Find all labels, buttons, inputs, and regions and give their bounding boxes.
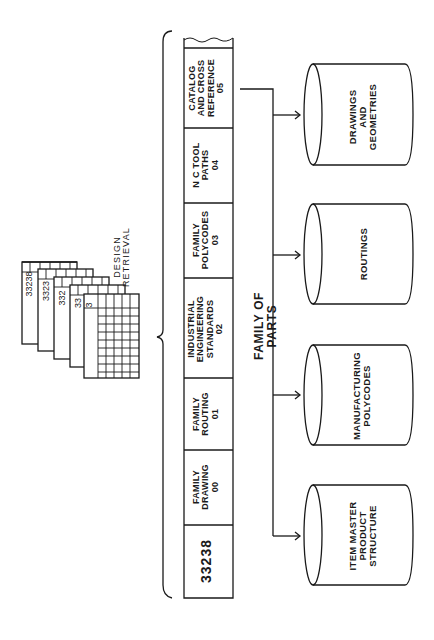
segment-industrial-engineering-standards: INDUSTRIAL ENGINEERING STANDARDS 02 — [187, 279, 229, 379]
card-label: 3 — [85, 290, 97, 320]
design-retrieval-label: DESIGN RETRIEVAL — [113, 217, 139, 297]
segment-nc-tool-paths: N C TOOL PATHS 04 — [192, 127, 226, 203]
database-label-manufacturing-polycodes: MANUFACTURING POLYCODES — [352, 348, 376, 444]
record-key: 33238 — [199, 525, 219, 597]
database-label-item-master: ITEM MASTER PRODUCT STRUCTURE — [348, 491, 382, 581]
segment-family-drawing: FAMILY DRAWING 00 — [192, 451, 226, 523]
family-of-parts-label: FAMILY OF PARTS — [253, 271, 269, 381]
segment-catalog-cross-reference: CATALOG AND CROSS REFERENCE 05 — [188, 48, 230, 128]
database-label-routings: ROUTINGS — [359, 209, 371, 299]
card-label: 332 — [58, 278, 70, 318]
database-label-drawings: DRAWINGS AND GEOMETRIES — [348, 72, 382, 162]
segment-family-polycodes: FAMILY POLYCODES 03 — [192, 202, 226, 278]
card-label: 33238 — [25, 264, 37, 304]
card-label: 3323 — [42, 271, 54, 311]
segment-family-routing: FAMILY ROUTING 01 — [192, 376, 226, 452]
brace — [157, 31, 172, 598]
